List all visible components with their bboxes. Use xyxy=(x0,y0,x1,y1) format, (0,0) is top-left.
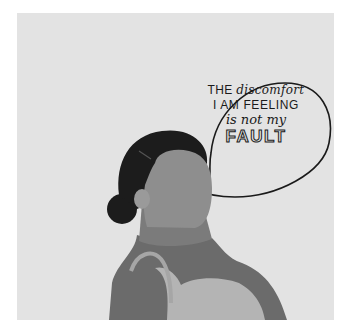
figure-illustration xyxy=(17,13,334,320)
illustration-panel xyxy=(17,13,334,320)
speech-bubble-text: THE discomfort I AM FEELING is not my FA… xyxy=(196,84,316,145)
bubble-word-the: THE xyxy=(208,83,233,97)
ear xyxy=(134,189,150,209)
bubble-line-1: THE discomfort xyxy=(196,84,316,96)
bubble-word-discomfort: discomfort xyxy=(236,83,304,97)
bubble-line-2: I AM FEELING xyxy=(196,99,316,111)
bubble-line-3: is not my xyxy=(196,113,316,126)
bubble-line-4: FAULT xyxy=(196,128,316,145)
